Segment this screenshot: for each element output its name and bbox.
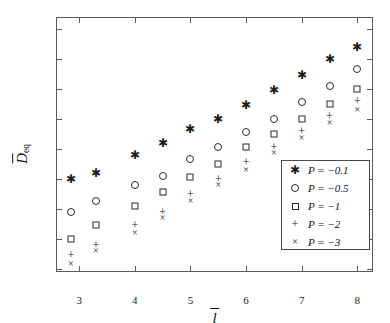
x-axis-tick — [135, 266, 136, 271]
legend-item: +P = −2 — [282, 215, 369, 233]
x-axis-tick-top — [357, 18, 358, 23]
data-point-square — [215, 160, 222, 167]
data-point-circle — [242, 128, 250, 136]
x-axis-label-main: l — [212, 310, 216, 323]
legend-item-label: P = −3 — [308, 236, 340, 248]
data-point-square — [354, 85, 361, 92]
data-point-square — [67, 235, 74, 242]
data-point-cross: × — [93, 246, 99, 256]
x-axis-tick — [190, 266, 191, 271]
data-point-plus: + — [271, 141, 278, 153]
data-point-cross: × — [354, 105, 360, 115]
data-point-circle — [326, 82, 334, 90]
y-axis-tick — [57, 29, 62, 30]
legend-item-label: P = −0.5 — [308, 182, 349, 194]
cross-marker: × — [282, 237, 308, 247]
legend-item: ×P = −3 — [282, 233, 369, 251]
data-point-cross: × — [271, 148, 277, 158]
data-point-plus: + — [93, 239, 100, 251]
data-point-circle — [298, 98, 306, 106]
x-axis-tick-label: 3 — [76, 294, 82, 306]
data-point-square — [92, 222, 99, 229]
data-point-circle — [353, 65, 361, 73]
data-point-star: ✱ — [352, 41, 362, 53]
y-axis-tick-right — [367, 269, 372, 270]
data-point-plus: + — [215, 173, 222, 185]
data-point-plus: + — [326, 110, 333, 122]
x-axis-tick-top — [302, 18, 303, 23]
data-point-circle — [67, 208, 75, 216]
y-axis-tick-right — [367, 149, 372, 150]
data-point-star: ✱ — [158, 137, 168, 149]
data-point-star: ✱ — [130, 149, 140, 161]
data-point-circle — [214, 143, 222, 151]
x-axis-tick — [302, 266, 303, 271]
x-axis-label: l — [212, 310, 216, 323]
data-point-cross: × — [188, 196, 194, 206]
data-point-star: ✱ — [269, 84, 279, 96]
star-marker: ✱ — [282, 164, 308, 176]
y-axis-tick — [57, 89, 62, 90]
y-axis-tick — [57, 239, 62, 240]
data-point-cross: × — [299, 133, 305, 143]
data-point-square — [187, 174, 194, 181]
x-axis-tick-label: 4 — [132, 294, 138, 306]
data-point-plus: + — [131, 219, 138, 231]
legend-item-label: P = −2 — [308, 218, 340, 230]
y-axis-label: Deq — [14, 144, 31, 164]
data-point-star: ✱ — [91, 167, 101, 179]
data-point-circle — [270, 115, 278, 123]
legend-item-label: P = −0.1 — [308, 164, 349, 176]
legend: ✱P = −0.1P = −0.5P = −1+P = −2×P = −3 — [281, 160, 370, 250]
y-axis-label-main: D — [14, 153, 30, 164]
data-point-circle — [186, 155, 194, 163]
x-axis-tick-label: 8 — [355, 294, 361, 306]
y-axis-tick-right — [367, 89, 372, 90]
data-point-circle — [92, 197, 100, 205]
data-point-plus: + — [68, 249, 75, 261]
x-axis-tick-top — [190, 18, 191, 23]
data-point-star: ✱ — [297, 69, 307, 81]
data-point-plus: + — [298, 125, 305, 137]
x-axis-tick-top — [135, 18, 136, 23]
data-point-square — [298, 115, 305, 122]
data-point-square — [131, 202, 138, 209]
x-axis-tick — [79, 266, 80, 271]
data-point-square — [159, 189, 166, 196]
data-point-cross: × — [68, 259, 74, 269]
plus-marker: + — [282, 218, 308, 230]
data-point-square — [326, 100, 333, 107]
data-point-circle — [131, 181, 139, 189]
y-axis-tick — [57, 209, 62, 210]
y-axis-tick-right — [367, 59, 372, 60]
x-axis-tick-top — [246, 18, 247, 23]
figure-container: ✱✱✱✱✱✱✱✱✱✱✱+++++++++++××××××××××× 345678… — [0, 0, 390, 323]
data-point-cross: × — [132, 228, 138, 238]
y-axis-label-subscript: eq — [21, 144, 31, 153]
y-axis-tick — [57, 269, 62, 270]
data-point-star: ✱ — [241, 99, 251, 111]
legend-item: P = −0.5 — [282, 179, 369, 197]
legend-item-label: P = −1 — [308, 200, 340, 212]
data-point-circle — [159, 172, 167, 180]
x-axis-tick-label: 7 — [299, 294, 305, 306]
y-axis-tick — [57, 179, 62, 180]
data-point-plus: + — [243, 156, 250, 168]
data-point-plus: + — [354, 95, 361, 107]
data-point-square — [243, 144, 250, 151]
data-point-star: ✱ — [66, 173, 76, 185]
x-axis-tick-top — [79, 18, 80, 23]
y-axis-tick-right — [367, 29, 372, 30]
x-axis-tick-label: 5 — [188, 294, 194, 306]
data-point-cross: × — [215, 180, 221, 190]
square-marker — [282, 203, 308, 210]
data-point-star: ✱ — [213, 113, 223, 125]
legend-item: ✱P = −0.1 — [282, 161, 369, 179]
data-point-star: ✱ — [325, 53, 335, 65]
y-axis-tick — [57, 119, 62, 120]
data-point-cross: × — [160, 213, 166, 223]
x-axis-tick-label: 6 — [243, 294, 249, 306]
x-axis-tick — [357, 266, 358, 271]
circle-marker — [282, 184, 308, 192]
y-axis-tick — [57, 59, 62, 60]
